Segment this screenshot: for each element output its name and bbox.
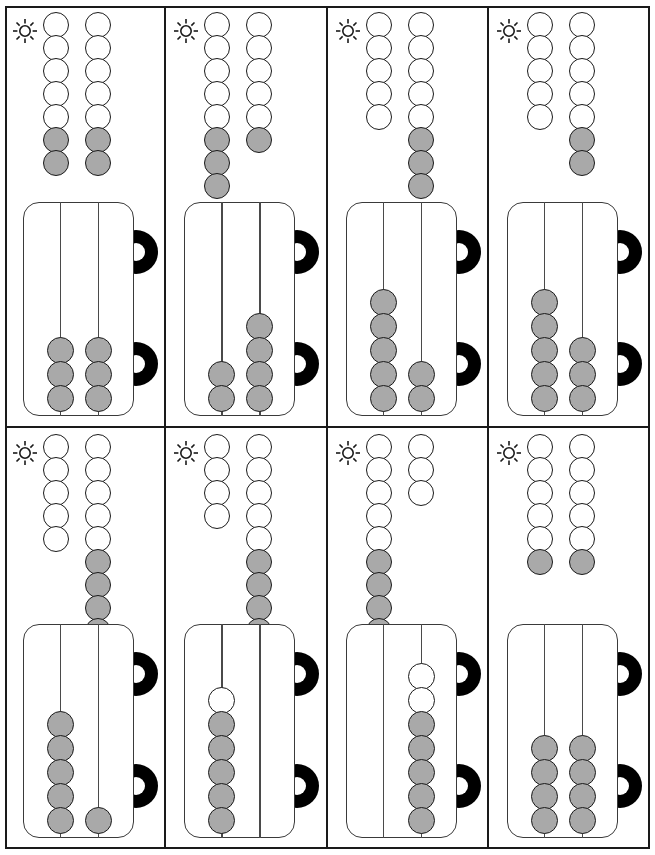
- abacus-bead-filled[interactable]: [85, 385, 112, 412]
- abacus-bead-filled[interactable]: [408, 361, 435, 388]
- abacus-bead-filled[interactable]: [531, 807, 558, 834]
- problem-cell[interactable]: [166, 428, 327, 850]
- bead-column: [569, 434, 597, 572]
- abacus-bead-filled[interactable]: [85, 361, 112, 388]
- abacus-bead-filled[interactable]: [246, 385, 273, 412]
- abacus-frame: [346, 202, 457, 416]
- abacus-bead-filled[interactable]: [47, 337, 74, 364]
- abacus-bead-filled[interactable]: [569, 361, 596, 388]
- abacus-bead-empty[interactable]: [408, 663, 435, 690]
- bead-column: [246, 12, 274, 150]
- abacus-bead-filled[interactable]: [47, 385, 74, 412]
- abacus-bead-filled[interactable]: [370, 361, 397, 388]
- problem-cell[interactable]: [489, 6, 650, 428]
- abacus-bead-filled[interactable]: [569, 759, 596, 786]
- abacus-frame: [346, 624, 457, 838]
- abacus-rod[interactable]: [259, 624, 260, 838]
- abacus-bead-filled[interactable]: [47, 735, 74, 762]
- abacus-bead-filled[interactable]: [208, 807, 235, 834]
- abacus-bead-filled[interactable]: [408, 807, 435, 834]
- problem-cell[interactable]: [5, 428, 166, 850]
- abacus-bead-filled[interactable]: [370, 313, 397, 340]
- bead-filled: [43, 150, 69, 176]
- abacus-bead-filled[interactable]: [531, 783, 558, 810]
- abacus-bead-empty[interactable]: [208, 687, 235, 714]
- abacus-bead-filled[interactable]: [569, 385, 596, 412]
- bead-empty: [85, 503, 111, 529]
- abacus-bead-filled[interactable]: [569, 807, 596, 834]
- abacus-bead-filled[interactable]: [85, 807, 112, 834]
- abacus-rod[interactable]: [383, 624, 384, 838]
- problem-cell[interactable]: [328, 6, 489, 428]
- abacus-frame: [507, 202, 618, 416]
- bead-empty: [43, 457, 69, 483]
- abacus-bead-filled[interactable]: [531, 759, 558, 786]
- abacus-bead-filled[interactable]: [408, 385, 435, 412]
- abacus-bead-filled[interactable]: [531, 313, 558, 340]
- abacus-rod[interactable]: [98, 624, 99, 838]
- abacus-bead-filled[interactable]: [208, 735, 235, 762]
- bead-column: [569, 12, 597, 173]
- bead-filled: [366, 549, 392, 575]
- bead-filled: [85, 150, 111, 176]
- abacus-bead-filled[interactable]: [408, 711, 435, 738]
- bead-empty: [366, 434, 392, 460]
- abacus-bead-filled[interactable]: [246, 313, 273, 340]
- abacus-bead-filled[interactable]: [246, 337, 273, 364]
- bead-filled: [366, 572, 392, 598]
- abacus-bead-filled[interactable]: [531, 289, 558, 316]
- abacus-bead-filled[interactable]: [246, 361, 273, 388]
- abacus-bead-filled[interactable]: [531, 385, 558, 412]
- bead-empty: [569, 457, 595, 483]
- abacus-bead-filled[interactable]: [208, 711, 235, 738]
- abacus-rod-beads: [47, 711, 75, 834]
- abacus-bead-filled[interactable]: [531, 361, 558, 388]
- bead-empty: [43, 434, 69, 460]
- problem-cell[interactable]: [489, 428, 650, 850]
- abacus-bead-filled[interactable]: [47, 783, 74, 810]
- abacus: [184, 202, 302, 416]
- abacus-bead-filled[interactable]: [408, 759, 435, 786]
- abacus-rod-beads: [569, 337, 597, 412]
- abacus-rod-beads: [85, 337, 113, 412]
- abacus-bead-filled[interactable]: [85, 337, 112, 364]
- abacus-bead-filled[interactable]: [569, 735, 596, 762]
- problem-cell[interactable]: [166, 6, 327, 428]
- abacus-bead-filled[interactable]: [47, 759, 74, 786]
- worksheet-page: [0, 0, 655, 855]
- bead-empty: [366, 503, 392, 529]
- abacus-bead-filled[interactable]: [208, 783, 235, 810]
- abacus: [346, 624, 464, 838]
- abacus-bead-filled[interactable]: [208, 385, 235, 412]
- bead-empty: [569, 434, 595, 460]
- bead-filled: [246, 595, 272, 621]
- abacus-frame: [184, 202, 295, 416]
- abacus-bead-filled[interactable]: [47, 807, 74, 834]
- abacus-bead-filled[interactable]: [370, 385, 397, 412]
- abacus-bead-filled[interactable]: [569, 337, 596, 364]
- abacus-bead-filled[interactable]: [208, 759, 235, 786]
- bead-empty: [527, 480, 553, 506]
- bead-column: [527, 434, 555, 572]
- abacus-bead-filled[interactable]: [531, 337, 558, 364]
- bead-empty: [366, 526, 392, 552]
- bead-column: [366, 12, 394, 127]
- abacus-bead-empty[interactable]: [408, 687, 435, 714]
- abacus-bead-filled[interactable]: [47, 711, 74, 738]
- bead-empty: [85, 457, 111, 483]
- abacus-bead-filled[interactable]: [47, 361, 74, 388]
- problem-cell[interactable]: [328, 428, 489, 850]
- bead-empty: [204, 503, 230, 529]
- abacus-rod-beads: [208, 687, 236, 834]
- abacus-bead-filled[interactable]: [569, 783, 596, 810]
- abacus-bead-filled[interactable]: [370, 337, 397, 364]
- problem-cell[interactable]: [5, 6, 166, 428]
- abacus-bead-filled[interactable]: [208, 361, 235, 388]
- abacus-rod-beads: [246, 313, 274, 412]
- abacus-bead-filled[interactable]: [408, 783, 435, 810]
- bead-empty: [569, 526, 595, 552]
- bead-empty: [85, 480, 111, 506]
- abacus-bead-filled[interactable]: [370, 289, 397, 316]
- abacus-bead-filled[interactable]: [531, 735, 558, 762]
- abacus-bead-filled[interactable]: [408, 735, 435, 762]
